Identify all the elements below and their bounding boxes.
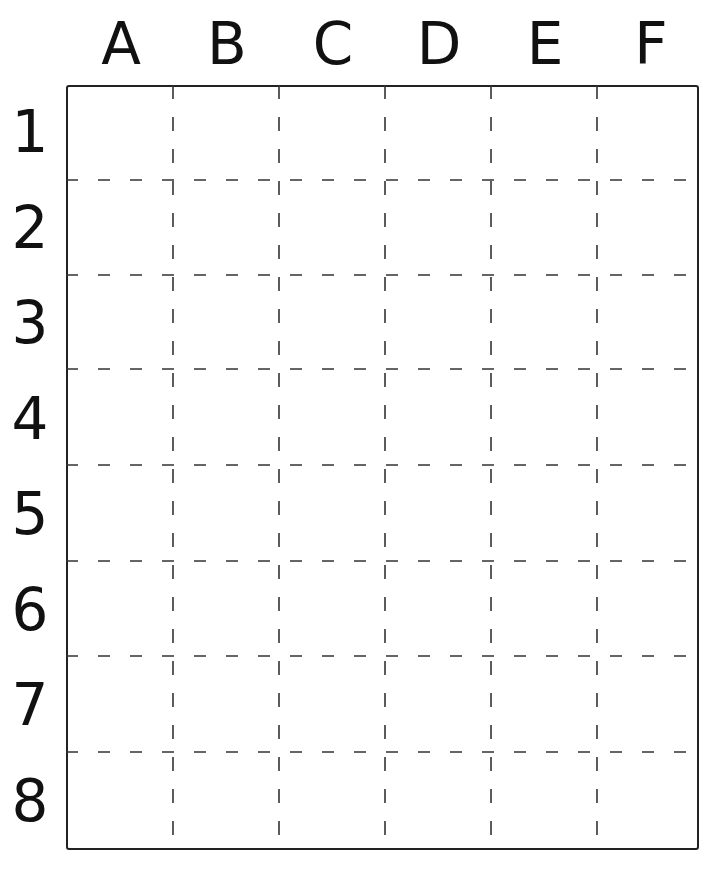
column-label-d: D xyxy=(386,12,492,76)
coordinate-grid[interactable] xyxy=(66,85,699,850)
row-label-8: 8 xyxy=(0,769,60,833)
column-label-c: C xyxy=(280,12,386,76)
column-label-a: A xyxy=(68,12,174,76)
grid-lines xyxy=(66,85,699,850)
row-label-7: 7 xyxy=(0,673,60,737)
column-label-f: F xyxy=(598,12,704,76)
row-label-1: 1 xyxy=(0,100,60,164)
row-label-4: 4 xyxy=(0,387,60,451)
row-label-3: 3 xyxy=(0,291,60,355)
column-label-b: B xyxy=(174,12,280,76)
row-label-2: 2 xyxy=(0,196,60,260)
column-label-e: E xyxy=(492,12,598,76)
row-label-6: 6 xyxy=(0,578,60,642)
row-label-5: 5 xyxy=(0,482,60,546)
